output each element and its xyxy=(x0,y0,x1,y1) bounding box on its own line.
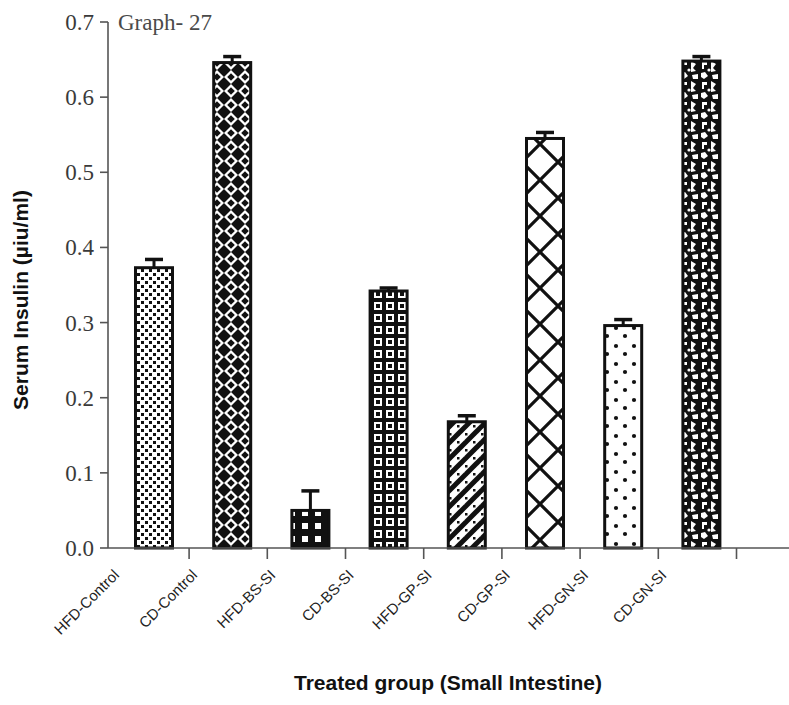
category-labels: HFD-ControlCD-ControlHFD-BS-SICD-BS-SIHF… xyxy=(51,566,670,638)
bar xyxy=(448,422,485,548)
bar xyxy=(136,268,173,548)
bar xyxy=(683,61,720,548)
y-tick-label: 0.5 xyxy=(65,160,94,185)
x-tick-label: HFD-BS-SI xyxy=(213,566,278,631)
bar xyxy=(214,63,251,548)
y-axis: 0.70.60.50.40.30.20.10.0 xyxy=(65,10,108,561)
y-tick-label: 0.1 xyxy=(65,461,94,486)
x-tick-label: CD-GN-SI xyxy=(609,566,669,626)
bar-chart: 0.70.60.50.40.30.20.10.0 HFD-ControlCD-C… xyxy=(0,0,789,705)
y-tick-label: 0.0 xyxy=(65,536,94,561)
y-tick-label: 0.4 xyxy=(65,235,94,260)
chart-canvas: 0.70.60.50.40.30.20.10.0 HFD-ControlCD-C… xyxy=(0,0,789,705)
x-tick-label: CD-GP-SI xyxy=(453,566,513,626)
x-axis xyxy=(108,548,789,559)
bar xyxy=(605,326,642,548)
y-tick-label: 0.3 xyxy=(65,311,94,336)
error-bar xyxy=(301,491,319,511)
bar xyxy=(370,291,407,548)
chart-title: Graph- 27 xyxy=(118,10,212,35)
x-tick-label: HFD-Control xyxy=(51,566,123,638)
bars-layer xyxy=(136,61,720,548)
x-tick-label: CD-BS-SI xyxy=(298,566,357,625)
x-tick-label: CD-Control xyxy=(135,566,200,631)
x-tick-label: HFD-GN-SI xyxy=(524,566,591,633)
bar xyxy=(292,510,329,548)
y-tick-label: 0.2 xyxy=(65,386,94,411)
y-tick-label: 0.6 xyxy=(65,85,94,110)
x-tick-label: HFD-GP-SI xyxy=(369,566,435,632)
x-axis-title: Treated group (Small Intestine) xyxy=(294,671,602,694)
bar xyxy=(527,138,564,548)
y-tick-label: 0.7 xyxy=(65,10,94,35)
y-axis-title: Serum Insulin (µiu/ml) xyxy=(9,190,32,410)
